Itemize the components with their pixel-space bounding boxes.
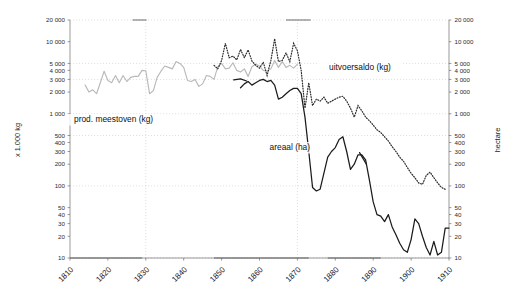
y-axis-tick-label: 10 xyxy=(58,254,65,261)
y-axis-right-title: hectare xyxy=(493,128,502,153)
madder-production-log-chart: 10203040501002003004005001 0002 0003 000… xyxy=(0,0,519,302)
y-axis-tick-label: 20 000 xyxy=(46,16,65,23)
annotation-text: areaal (ha) xyxy=(270,142,311,152)
chart-background xyxy=(0,0,519,302)
y-axis-right-tick-label: 4 000 xyxy=(455,67,471,74)
y-axis-right-tick-label: 5 000 xyxy=(455,60,471,67)
y-axis-right-tick-label: 100 xyxy=(455,182,466,189)
y-axis-tick-label: 5 000 xyxy=(50,60,66,67)
y-axis-right-tick-label: 10 000 xyxy=(455,38,474,45)
y-axis-right-tick-label: 30 xyxy=(455,220,462,227)
y-axis-right-tick-label: 400 xyxy=(455,139,466,146)
y-axis-right-tick-label: 20 000 xyxy=(455,16,474,23)
y-axis-right-tick-label: 20 xyxy=(455,233,462,240)
y-axis-tick-label: 30 xyxy=(58,220,65,227)
y-axis-tick-label: 40 xyxy=(58,211,65,218)
y-axis-right-tick-label: 1 000 xyxy=(455,110,471,117)
y-axis-tick-label: 200 xyxy=(55,160,66,167)
y-axis-tick-label: 10 000 xyxy=(46,38,65,45)
y-axis-tick-label: 500 xyxy=(55,132,66,139)
y-axis-tick-label: 20 xyxy=(58,233,65,240)
y-axis-tick-label: 2 000 xyxy=(50,88,66,95)
y-axis-left-title: x 1.000 kg xyxy=(13,123,22,157)
y-axis-tick-label: 400 xyxy=(55,139,66,146)
series-annotation: uitvoersaldo (kg) xyxy=(318,62,402,74)
y-axis-tick-label: 50 xyxy=(58,204,65,211)
y-axis-right-tick-label: 10 xyxy=(455,254,462,261)
y-axis-right-tick-label: 3 000 xyxy=(455,76,471,83)
y-axis-right-tick-label: 300 xyxy=(455,148,466,155)
series-annotation: prod. meestoven (kg) xyxy=(65,114,162,126)
y-axis-right-tick-label: 50 xyxy=(455,204,462,211)
y-axis-right-tick-label: 200 xyxy=(455,160,466,167)
y-axis-right-tick-label: 500 xyxy=(455,132,466,139)
y-axis-right-tick-label: 2 000 xyxy=(455,88,471,95)
y-axis-right-tick-label: 40 xyxy=(455,211,462,218)
y-axis-tick-label: 3 000 xyxy=(50,76,66,83)
y-axis-tick-label: 100 xyxy=(55,182,66,189)
series-annotation: areaal (ha) xyxy=(261,142,318,154)
y-axis-tick-label: 4 000 xyxy=(50,67,66,74)
y-axis-tick-label: 300 xyxy=(55,148,66,155)
annotation-text: uitvoersaldo (kg) xyxy=(329,62,391,72)
annotation-text: prod. meestoven (kg) xyxy=(74,114,153,124)
chart-container: 10203040501002003004005001 0002 0003 000… xyxy=(0,0,519,302)
y-axis-tick-label: 1 000 xyxy=(50,110,66,117)
